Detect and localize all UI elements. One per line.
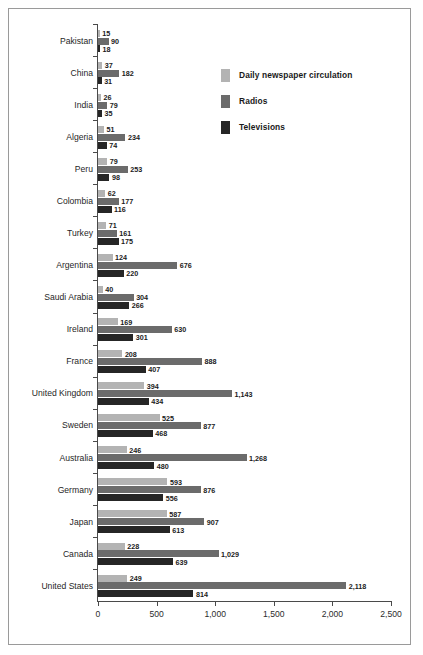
bar[interactable] (98, 110, 102, 117)
bar-value-label: 2,118 (349, 583, 367, 590)
bar[interactable] (98, 70, 119, 77)
bar-value-label: 888 (205, 358, 217, 365)
bar-value-label: 79 (110, 158, 118, 165)
bar[interactable] (98, 590, 193, 597)
bar[interactable] (98, 45, 100, 52)
category-label: Sweden (0, 420, 93, 430)
bar[interactable] (98, 166, 128, 173)
bar[interactable] (98, 398, 149, 405)
bar[interactable] (98, 350, 122, 357)
chart-figure: 05001,0001,5002,0002,500 Pakistan159018C… (0, 0, 423, 655)
bar[interactable] (98, 77, 102, 84)
legend-item[interactable]: Televisions (221, 114, 401, 140)
bar[interactable] (98, 486, 201, 493)
y-axis-tick (93, 569, 97, 570)
bar-value-label: 169 (120, 319, 132, 326)
bar[interactable] (98, 102, 107, 109)
category-label: France (0, 356, 93, 366)
bar[interactable] (98, 446, 127, 453)
bar[interactable] (98, 478, 167, 485)
y-axis-tick (93, 313, 97, 314)
legend-item[interactable]: Radios (221, 88, 401, 114)
bar-group: Argentina124676220 (0, 248, 423, 280)
bar[interactable] (98, 582, 346, 589)
bar[interactable] (98, 494, 163, 501)
bar[interactable] (98, 558, 173, 565)
legend-item[interactable]: Daily newspaper circulation (221, 62, 401, 88)
bar[interactable] (98, 462, 154, 469)
bar[interactable] (98, 543, 125, 550)
bar[interactable] (98, 38, 109, 45)
x-axis-tick-label: 1,000 (204, 609, 226, 619)
bar-value-label: 468 (155, 430, 167, 437)
bar-value-label: 220 (126, 270, 138, 277)
bar[interactable] (98, 230, 117, 237)
bar-value-label: 407 (148, 366, 160, 373)
bar[interactable] (98, 430, 153, 437)
bar-group: Sweden525877468 (0, 409, 423, 441)
bar[interactable] (98, 238, 119, 245)
bar[interactable] (98, 382, 144, 389)
bar-value-label: 907 (207, 519, 219, 526)
y-axis-tick (93, 152, 97, 153)
bar-value-label: 876 (203, 487, 215, 494)
bar-value-label: 40 (105, 286, 113, 293)
bar[interactable] (98, 270, 124, 277)
bar[interactable] (98, 262, 177, 269)
x-axis-tick-label: 1,500 (263, 609, 285, 619)
bar[interactable] (98, 526, 170, 533)
legend-item-label: Daily newspaper circulation (239, 70, 352, 80)
x-axis-tick (157, 601, 158, 606)
bar-value-label: 71 (109, 222, 117, 229)
bar[interactable] (98, 302, 129, 309)
bar[interactable] (98, 174, 109, 181)
bar-value-label: 593 (170, 479, 182, 486)
category-label: Australia (0, 453, 93, 463)
x-axis-tick (215, 601, 216, 606)
bar[interactable] (98, 222, 106, 229)
y-axis-tick (93, 280, 97, 281)
bar[interactable] (98, 190, 105, 197)
bar[interactable] (98, 142, 107, 149)
bar[interactable] (98, 206, 112, 213)
bar[interactable] (98, 326, 172, 333)
bar[interactable] (98, 254, 113, 261)
bar-value-label: 90 (111, 38, 119, 45)
bar-group: Ireland169630301 (0, 313, 423, 345)
bar[interactable] (98, 94, 101, 101)
bar-group: Saudi Arabia40304266 (0, 280, 423, 312)
bar[interactable] (98, 62, 102, 69)
y-axis-tick (93, 409, 97, 410)
y-axis-tick (93, 377, 97, 378)
bar[interactable] (98, 390, 232, 397)
bar[interactable] (98, 414, 160, 421)
bar[interactable] (98, 575, 127, 582)
bar-value-label: 246 (129, 447, 141, 454)
bar-group: France208888407 (0, 345, 423, 377)
bar[interactable] (98, 134, 125, 141)
x-axis-tick (274, 601, 275, 606)
bar[interactable] (98, 366, 146, 373)
bar[interactable] (98, 422, 201, 429)
bar[interactable] (98, 454, 247, 461)
bar[interactable] (98, 318, 118, 325)
bar[interactable] (98, 126, 104, 133)
bar[interactable] (98, 550, 219, 557)
bar-value-label: 35 (105, 110, 113, 117)
bar[interactable] (98, 30, 100, 37)
bar[interactable] (98, 158, 107, 165)
bar[interactable] (98, 358, 202, 365)
bar[interactable] (98, 334, 133, 341)
bar-group: Pakistan159018 (0, 24, 423, 56)
bar[interactable] (98, 286, 103, 293)
bar[interactable] (98, 294, 134, 301)
bar-group: Australia2461,268480 (0, 441, 423, 473)
bar-value-label: 877 (203, 423, 215, 430)
bar[interactable] (98, 518, 204, 525)
category-label: Algeria (0, 132, 93, 142)
bar-group: Canada2281,029639 (0, 537, 423, 569)
bar[interactable] (98, 510, 167, 517)
bar[interactable] (98, 198, 119, 205)
legend-item-label: Televisions (239, 122, 285, 132)
bar-value-label: 630 (174, 326, 186, 333)
